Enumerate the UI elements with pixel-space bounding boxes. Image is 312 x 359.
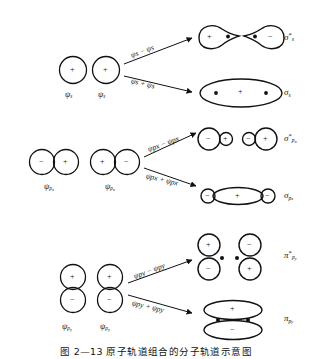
sign-plus: + (70, 66, 75, 74)
sign-plus: + (263, 135, 268, 143)
sign-plus: + (206, 241, 211, 249)
output-label-sigma-s-bonding: σs (284, 88, 291, 98)
output-label-sigma-s-antibonding: σ*s (284, 32, 294, 43)
sign-minus: − (124, 158, 129, 166)
sign-plus: + (235, 192, 240, 200)
sign-minus: − (107, 296, 112, 304)
sign-minus: − (39, 158, 44, 166)
output-label-pi-py-bonding: πpy (284, 314, 293, 325)
input-label-psi-py-2: ψpy (100, 322, 110, 332)
input-label-psi-s-2: ψs (98, 90, 105, 100)
input-label-psi-s-1: ψs (65, 90, 72, 100)
row-sigma-px-inputs (30, 150, 140, 175)
sign-minus: − (70, 296, 75, 304)
sign-minus: − (206, 265, 211, 273)
sign-minus: − (246, 135, 251, 143)
sign-minus: − (268, 33, 273, 41)
sign-plus: + (223, 135, 228, 143)
sign-minus: − (206, 135, 211, 143)
row-sigma-s-inputs (60, 57, 120, 84)
sign-plus: + (103, 66, 108, 74)
output-label-pi-py-antibonding: π*py (284, 250, 297, 261)
output-label-sigma-px-bonding: σpx (284, 191, 293, 202)
sign-minus: − (265, 192, 270, 200)
input-label-psi-px-1: ψpx (44, 182, 54, 192)
sign-plus: + (63, 158, 68, 166)
sign-plus: + (70, 273, 75, 281)
sign-plus: + (238, 88, 243, 96)
figure-caption: 图 2—13 原子轨道组合的分子轨道示意图 (0, 344, 312, 358)
input-label-psi-px-2: ψpx (105, 182, 115, 192)
sign-minus: − (230, 326, 235, 334)
sign-plus: + (107, 273, 112, 281)
sign-minus: − (205, 192, 210, 200)
sign-plus: + (100, 158, 105, 166)
sign-plus: + (207, 33, 212, 41)
input-label-psi-py-1: ψpy (62, 322, 72, 332)
sign-plus: + (230, 305, 235, 313)
figure-canvas: + + ψs ψs ψs − ψs ψs + ψs + − + σ*s σs −… (0, 0, 312, 359)
output-label-sigma-px-antibonding: σ*px (284, 133, 297, 144)
sign-plus: + (247, 265, 252, 273)
sign-minus: − (247, 241, 252, 249)
